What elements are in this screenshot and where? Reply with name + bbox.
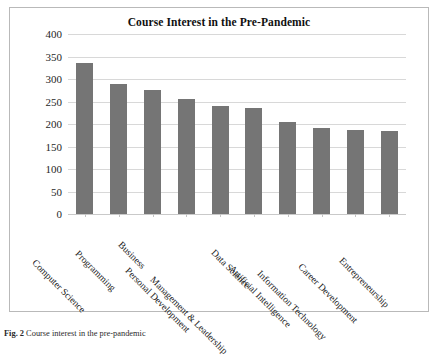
y-axis-tick-label: 0 bbox=[57, 208, 63, 220]
caption-label: Fig. 2 bbox=[4, 329, 24, 338]
chart-title: Course Interest in the Pre-Pandemic bbox=[10, 16, 428, 28]
y-axis-tick-label: 100 bbox=[46, 163, 63, 175]
bar bbox=[313, 128, 330, 214]
bar bbox=[76, 63, 93, 214]
x-axis-label-4: Management & Leadership bbox=[148, 274, 230, 356]
bar bbox=[178, 99, 195, 214]
bar bbox=[144, 90, 161, 214]
y-axis-tick-label: 300 bbox=[46, 73, 63, 85]
y-axis-tick-label: 150 bbox=[46, 141, 63, 153]
bar bbox=[347, 130, 364, 214]
caption-text: Course interest in the pre-pandemic bbox=[26, 329, 146, 338]
bar bbox=[279, 122, 296, 214]
y-axis-tick-label: 350 bbox=[46, 51, 63, 63]
y-axis-tick-label: 200 bbox=[46, 118, 63, 130]
bar bbox=[212, 106, 229, 214]
chart-frame: Course Interest in the Pre-Pandemic 4003… bbox=[9, 7, 429, 312]
figure-caption: Fig. 2 Course interest in the pre-pandem… bbox=[4, 329, 434, 338]
bar bbox=[381, 131, 398, 214]
x-axis-category-labels: Computer ScienceProgrammingBusinessPerso… bbox=[68, 216, 440, 316]
bars-group bbox=[68, 34, 406, 214]
y-axis-tick-label: 400 bbox=[46, 28, 63, 40]
x-axis-label-1: Programming bbox=[73, 248, 118, 293]
bar bbox=[110, 84, 127, 215]
x-axis-label-9: Entrepreneurship bbox=[337, 255, 392, 310]
x-axis-label-0: Computer Science bbox=[30, 257, 88, 315]
plot-area: 400350300250200150100500 bbox=[68, 34, 406, 214]
y-axis-tick-label: 50 bbox=[51, 186, 62, 198]
y-axis-tick-label: 250 bbox=[46, 96, 63, 108]
bar bbox=[245, 108, 262, 214]
